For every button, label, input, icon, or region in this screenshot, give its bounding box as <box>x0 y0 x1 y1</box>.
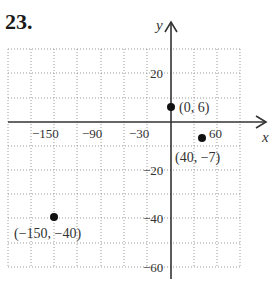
y-tick-label: −20 <box>143 163 163 178</box>
x-axis-label: x <box>261 129 269 145</box>
y-axis-label: y <box>154 17 163 33</box>
data-point <box>198 134 206 142</box>
x-tick-label: −150 <box>32 126 59 141</box>
point-label: (−150, −40) <box>14 226 81 242</box>
coordinate-plane: x y −150 −90 −30 60 20 −20 −40 −60 (0, 6… <box>0 0 279 296</box>
point-label: (0, 6) <box>179 100 210 116</box>
x-tick-label: −30 <box>129 126 149 141</box>
x-tick-label: 60 <box>209 126 222 141</box>
point-label: (40, −7) <box>175 150 221 166</box>
y-tick-label: 20 <box>150 66 163 81</box>
data-point <box>50 213 58 221</box>
y-tick-label: −60 <box>143 260 163 275</box>
x-tick-label: −90 <box>82 126 102 141</box>
data-point <box>167 103 175 111</box>
y-tick-label: −40 <box>143 211 163 226</box>
